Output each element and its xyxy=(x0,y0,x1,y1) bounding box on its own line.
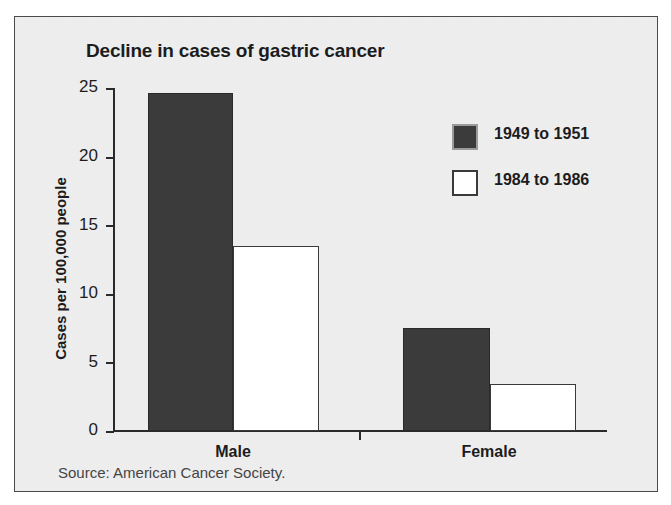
bar-female-1949-1951 xyxy=(403,328,490,431)
source-note: Source: American Cancer Society. xyxy=(58,464,285,481)
bar-male-1949-1951 xyxy=(148,93,233,431)
bar-male-1984-1986 xyxy=(233,246,319,431)
x-axis-mid-tick xyxy=(359,431,361,440)
x-category-label-female: Female xyxy=(429,443,549,461)
bar-female-1984-1986 xyxy=(490,384,576,431)
legend-label-1949-1951: 1949 to 1951 xyxy=(494,125,589,143)
legend-swatch-white-square-icon xyxy=(452,170,478,196)
plot-area xyxy=(0,0,671,431)
x-category-label-male: Male xyxy=(173,443,293,461)
legend-swatch-dark-square-icon xyxy=(452,124,478,150)
chart-figure: Decline in cases of gastric cancer Cases… xyxy=(0,0,671,505)
legend-label-1984-1986: 1984 to 1986 xyxy=(494,171,589,189)
